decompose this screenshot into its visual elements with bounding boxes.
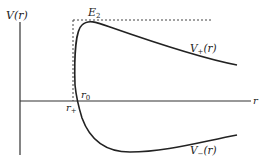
y-axis-label: V(r) <box>6 9 28 22</box>
potential-diagram: V(r) r E2 r0 r+ V+(r) V−(r) <box>0 0 273 165</box>
v-minus-label: V−(r) <box>190 144 217 158</box>
x-axis-label: r <box>253 95 259 106</box>
r-zero-label: r0 <box>81 89 90 102</box>
energy-level-label: E2 <box>87 6 101 20</box>
r-plus-label: r+ <box>66 102 77 115</box>
v-plus-label: V+(r) <box>190 42 217 56</box>
v-minus-curve <box>75 85 237 152</box>
